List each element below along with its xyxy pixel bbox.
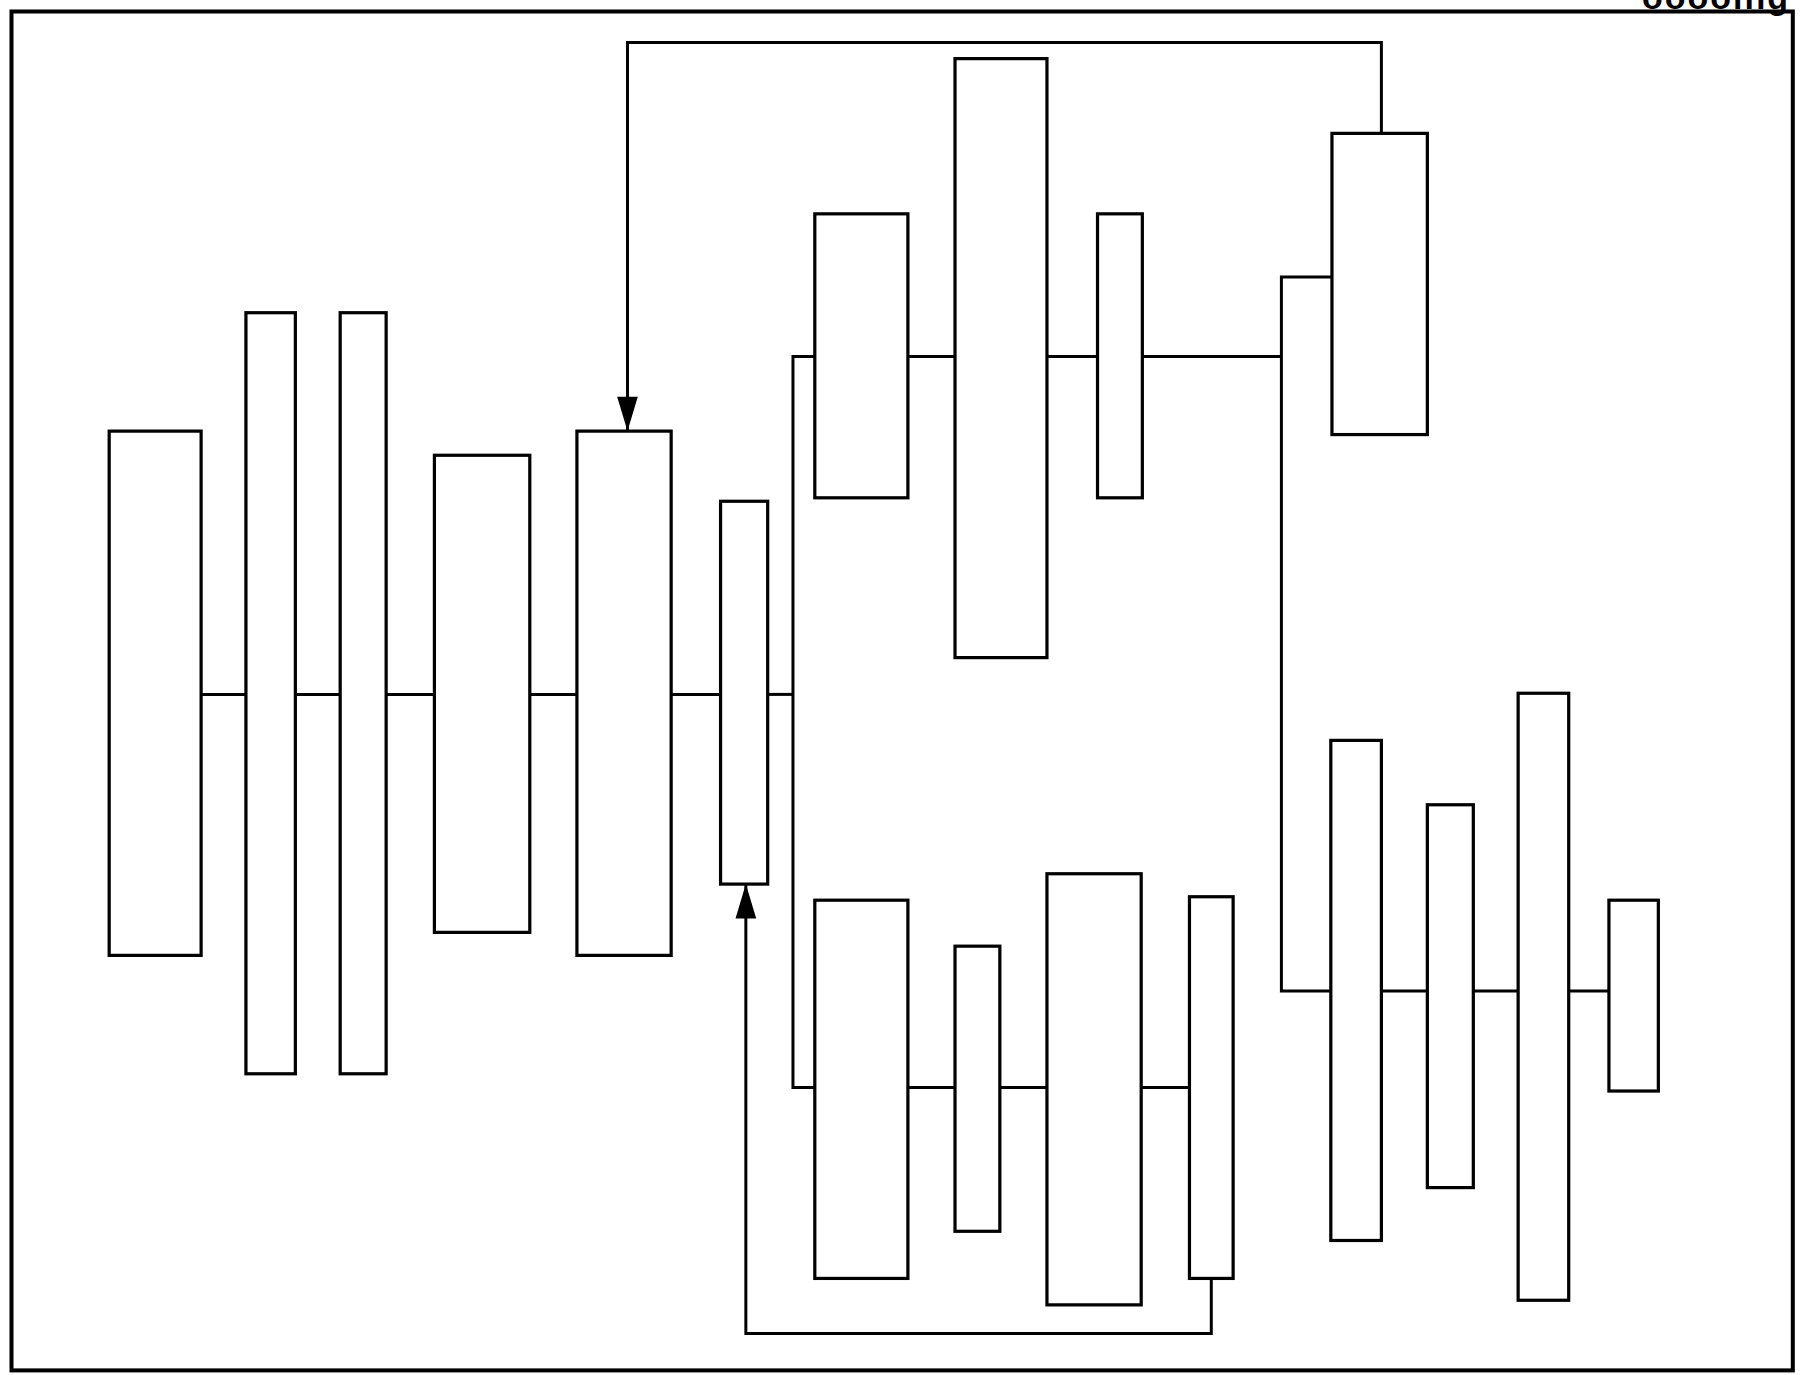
block-A [109,431,201,955]
block-J [1332,133,1427,434]
block-H [955,59,1047,658]
arrowhead-icon [736,884,757,918]
arrowhead-icon [617,397,638,431]
block-B [246,313,295,1074]
block-O [1331,740,1382,1240]
blocks [109,59,1658,1305]
block-diagram [0,0,1802,1375]
block-N [1189,897,1233,1279]
split-bus [793,356,815,1087]
block-M [1047,874,1141,1305]
block-P [1427,805,1473,1188]
block-F [721,501,768,884]
block-D [434,455,529,932]
block-E [577,431,671,955]
block-Q [1518,693,1569,1300]
block-I [1098,214,1143,498]
block-C [340,313,386,1074]
block-K [815,900,908,1278]
right-bus [1281,277,1332,991]
block-G [815,214,908,498]
block-L [955,946,1000,1231]
block-R [1609,900,1658,1091]
